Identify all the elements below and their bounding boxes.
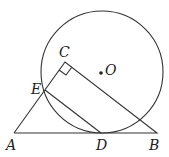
label-b: B	[148, 137, 159, 153]
label-d: D	[95, 137, 107, 153]
label-c: C	[59, 44, 70, 60]
center-point-o	[99, 71, 103, 75]
label-e: E	[30, 81, 41, 97]
geometry-diagram: C O E A D B	[0, 0, 169, 157]
segment-ed	[45, 90, 101, 133]
label-o: O	[105, 62, 117, 78]
label-a: A	[4, 137, 16, 153]
